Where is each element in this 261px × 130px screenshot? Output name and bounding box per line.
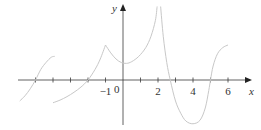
x-tick-label: 6	[225, 85, 231, 97]
x-axis-label: x	[248, 85, 254, 97]
x-tick-label: 2	[155, 85, 161, 97]
x-axis-arrow-icon	[245, 77, 252, 83]
origin-label: 0	[114, 83, 120, 95]
curve-piece-1	[20, 56, 55, 101]
y-axis-label: y	[111, 2, 117, 14]
curve-piece-4	[161, 7, 228, 124]
x-tick-label: 4	[190, 85, 196, 97]
curve-piece-3	[106, 7, 158, 64]
axes: x y 0	[18, 2, 254, 125]
y-axis-arrow-icon	[120, 4, 126, 11]
curve-piece-2	[53, 45, 106, 103]
x-tick-label: −1	[100, 85, 112, 97]
curves	[20, 7, 228, 124]
chart: x y 0 −1246	[0, 0, 261, 130]
